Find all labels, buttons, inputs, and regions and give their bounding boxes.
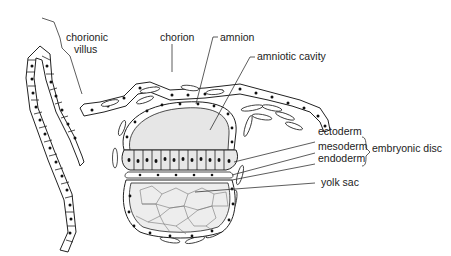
label-yolk-sac: yolk sac: [321, 176, 359, 188]
label-ectoderm: ectoderm: [318, 125, 362, 137]
yolk-sac: [123, 180, 235, 238]
label-amniotic-cavity: amniotic cavity: [257, 50, 327, 62]
label-chorionic-villus-1: chorionic: [66, 31, 108, 43]
label-mesoderm: mesoderm: [318, 140, 368, 152]
amnion: [123, 102, 236, 150]
mesoderm-endoderm-layers: [125, 172, 233, 178]
label-endoderm: endoderm: [318, 152, 366, 164]
label-chorionic-villus-2: villus: [74, 43, 97, 55]
ectoderm-layer: [122, 150, 238, 170]
label-chorion: chorion: [160, 31, 195, 43]
label-amnion: amnion: [220, 31, 255, 43]
embryo-diagram: chorionic villus chorion amnion amniotic…: [0, 0, 451, 256]
label-embryonic-disc: embryonic disc: [372, 142, 442, 154]
